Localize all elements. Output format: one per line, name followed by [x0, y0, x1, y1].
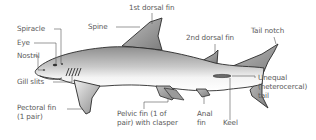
keel-shape [213, 74, 231, 77]
eye-shape [53, 64, 57, 67]
label-eye: Eye [17, 39, 30, 48]
label-spine: Spine [88, 23, 108, 32]
label-tail: tail [258, 92, 269, 101]
label-anal-fin-2: fin [197, 119, 206, 128]
label-gill-slits: Gill slits [17, 78, 44, 87]
label-nostril: Nostril [17, 52, 40, 61]
shark-anatomy-diagram: Spiracle Eye Nostril Gill slits Pectoral… [0, 0, 316, 140]
label-pectoral-fin-pair: (1 pair) [17, 113, 43, 122]
label-second-dorsal-fin: 2nd dorsal fin [186, 34, 234, 43]
label-pelvic-fin-clasper: pair) with clasper [117, 119, 178, 128]
spiracle-shape [61, 63, 63, 65]
shark-body-shape [35, 47, 264, 91]
first-dorsal-fin-shape [122, 18, 162, 50]
label-first-dorsal-fin: 1st dorsal fin [129, 4, 174, 13]
label-keel: Keel [223, 119, 238, 128]
label-tail-notch: Tail notch [251, 27, 284, 36]
label-spiracle: Spiracle [17, 25, 45, 34]
